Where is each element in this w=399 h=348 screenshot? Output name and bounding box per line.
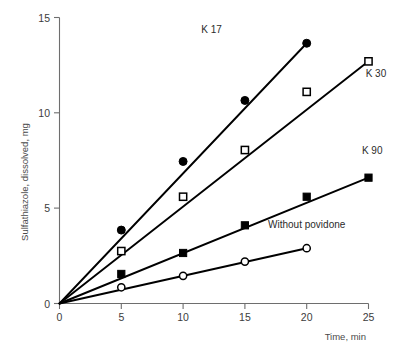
series-k-17	[60, 39, 311, 303]
series-label-k-17: K 17	[201, 24, 222, 35]
series-label-k-30: K 30	[366, 68, 387, 79]
y-tick-label-15: 15	[38, 12, 50, 24]
series-label-without-povidone: Without povidone	[268, 219, 346, 230]
series-k-30	[60, 58, 373, 304]
data-point	[118, 247, 125, 254]
y-axis-title: Sulfathiazole, dissolved, mg	[19, 123, 30, 241]
series-label-k-90: K 90	[362, 145, 383, 156]
data-point	[179, 157, 187, 165]
chart-figure: 15 10 5 0 0 5 10 15 20 25 Sulfathiazole,…	[0, 0, 399, 348]
x-tick-label-15: 15	[239, 311, 251, 323]
series-k-90	[60, 174, 373, 303]
data-point	[241, 258, 248, 265]
data-point	[117, 226, 125, 234]
data-point	[241, 146, 248, 153]
data-point	[180, 249, 187, 256]
series-layer	[60, 39, 373, 303]
trend-line	[60, 178, 369, 304]
trend-line	[60, 43, 307, 303]
y-tick-label-10: 10	[38, 107, 50, 119]
series-annotations: K 17K 30K 90Without povidone	[201, 24, 386, 230]
data-point	[365, 174, 372, 181]
y-tick-label-5: 5	[44, 202, 50, 214]
data-point	[118, 270, 125, 277]
y-axis-ticks	[54, 18, 60, 304]
chart-canvas: 15 10 5 0 0 5 10 15 20 25 Sulfathiazole,…	[0, 0, 399, 348]
x-tick-label-20: 20	[301, 311, 313, 323]
data-point	[303, 88, 310, 95]
data-point	[303, 245, 310, 252]
x-tick-label-10: 10	[177, 311, 189, 323]
data-point	[118, 284, 125, 291]
data-point	[303, 39, 311, 47]
data-point	[241, 222, 248, 229]
trend-line	[60, 61, 369, 303]
data-point	[180, 272, 187, 279]
data-point	[365, 58, 372, 65]
x-tick-label-0: 0	[57, 311, 63, 323]
data-point	[241, 96, 249, 104]
data-point	[180, 193, 187, 200]
x-tick-label-5: 5	[118, 311, 124, 323]
x-axis-title: Time, min	[325, 331, 366, 342]
x-axis-ticks	[60, 304, 369, 310]
x-tick-label-25: 25	[363, 311, 375, 323]
y-tick-label-0: 0	[44, 298, 50, 310]
data-point	[303, 193, 310, 200]
